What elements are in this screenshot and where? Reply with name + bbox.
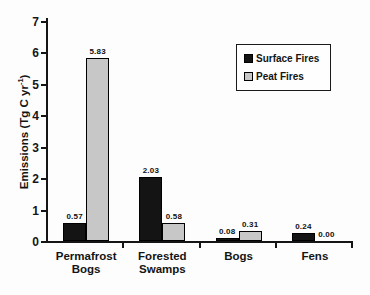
bar-peat-fires (86, 58, 109, 241)
y-tick-label: 7 (13, 15, 39, 29)
y-tick-label: 2 (13, 172, 39, 186)
peat-fires-swatch (244, 72, 253, 81)
x-tick (199, 243, 201, 248)
y-axis-line (46, 18, 48, 243)
x-tick (122, 243, 124, 248)
bar-value-label: 0.58 (154, 212, 194, 222)
category-label: Fens (276, 250, 354, 263)
bar-surface-fires (139, 177, 162, 241)
x-tick (351, 243, 353, 248)
y-tick (41, 115, 46, 117)
y-tick-label: 6 (13, 46, 39, 60)
bar-value-label: 5.83 (78, 47, 118, 57)
y-tick-label: 3 (13, 141, 39, 155)
legend-item-surface-fires: Surface Fires (244, 53, 330, 64)
category-label: Permafrost Bogs (47, 250, 125, 276)
bar-value-label: 0.00 (306, 230, 346, 240)
category-label: Bogs (200, 250, 278, 263)
y-tick (41, 52, 46, 54)
x-tick (275, 243, 277, 248)
bar-surface-fires (216, 238, 239, 241)
bar-value-label: 2.03 (131, 166, 171, 176)
y-tick-label: 0 (13, 235, 39, 249)
bar-chart-figure: Emissions (Tg C yr-1) 012345670.575.83Pe… (0, 0, 370, 295)
surface-fires-swatch (244, 54, 253, 63)
bar-surface-fires (63, 223, 86, 241)
y-tick (41, 84, 46, 86)
legend-item-peat-fires: Peat Fires (244, 71, 330, 82)
y-tick (41, 210, 46, 212)
bar-value-label: 0.31 (230, 220, 270, 230)
category-label: Forested Swamps (123, 250, 201, 276)
bar-peat-fires (239, 231, 262, 241)
y-tick (41, 21, 46, 23)
legend-label-peat-fires: Peat Fires (256, 71, 304, 82)
legend-label-surface-fires: Surface Fires (256, 53, 319, 64)
y-tick-label: 5 (13, 78, 39, 92)
y-tick (41, 147, 46, 149)
bar-peat-fires (162, 223, 185, 241)
y-tick (41, 241, 46, 243)
legend: Surface Fires Peat Fires (236, 44, 331, 91)
y-tick-label: 4 (13, 109, 39, 123)
y-tick-label: 1 (13, 204, 39, 218)
y-tick (41, 178, 46, 180)
